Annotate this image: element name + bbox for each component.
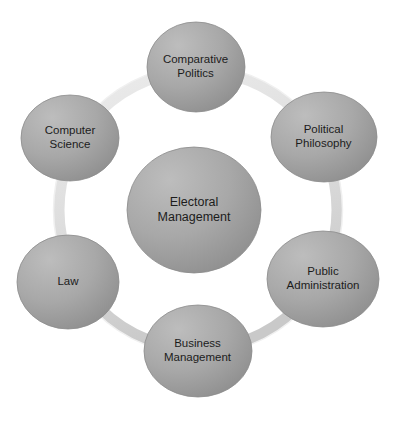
node-comparative-politics[interactable]: Comparative Politics [147,22,244,111]
node-label-computer-science: Computer Science [39,124,102,151]
diagram-canvas: Comparative Politics Political Philosoph… [0,0,399,425]
node-electoral-management[interactable]: Electoral Management [127,147,261,273]
node-computer-science[interactable]: Computer Science [21,95,119,180]
node-public-administration[interactable]: Public Administration [267,231,379,326]
node-political-philosophy[interactable]: Political Philosophy [271,92,376,181]
node-business-management[interactable]: Business Management [144,305,251,397]
node-law[interactable]: Law [17,235,119,328]
node-label-political-philosophy: Political Philosophy [289,123,357,150]
node-label-law: Law [51,275,84,289]
node-label-comparative-politics: Comparative Politics [157,53,234,80]
node-label-electoral-management: Electoral Management [152,195,237,225]
node-label-public-administration: Public Administration [281,265,366,292]
node-label-business-management: Business Management [158,337,237,364]
